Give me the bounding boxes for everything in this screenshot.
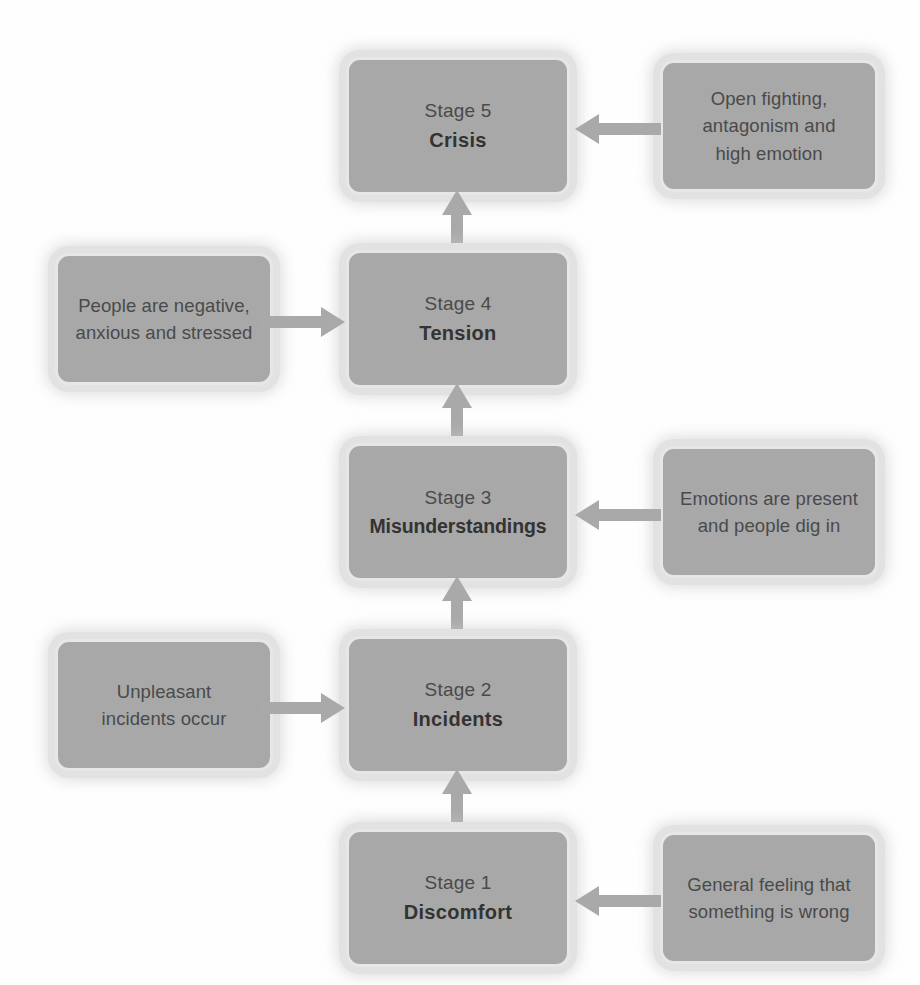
stage-4-name: Tension	[359, 319, 557, 348]
arrow-desc-to-stage-5	[575, 112, 661, 146]
description-line: General feeling that	[687, 874, 850, 895]
description-line: Open fighting,	[711, 88, 828, 109]
stage-1-label: Stage 1	[359, 869, 557, 897]
description-line: high emotion	[715, 143, 822, 164]
description-box-stage-1[interactable]: General feeling that something is wrong	[660, 832, 878, 964]
arrow-desc-to-stage-2	[259, 691, 345, 725]
stage-box-stage-1[interactable]: Stage 1 Discomfort	[346, 829, 570, 967]
description-box-stage-2[interactable]: Unpleasant incidents occur	[55, 639, 273, 771]
stage-5-name: Crisis	[359, 126, 557, 155]
description-line: something is wrong	[688, 901, 849, 922]
arrow-stage-2-to-stage-3	[440, 576, 474, 642]
description-line: and people dig in	[698, 515, 841, 536]
arrow-desc-to-stage-4	[259, 305, 345, 339]
stage-box-stage-5[interactable]: Stage 5 Crisis	[346, 57, 570, 195]
description-box-stage-5[interactable]: Open fighting, antagonism and high emoti…	[660, 60, 878, 192]
arrow-stage-3-to-stage-4	[440, 383, 474, 449]
description-text-stage-2: Unpleasant incidents occur	[58, 678, 270, 733]
stage-1-text: Stage 1 Discomfort	[349, 869, 567, 927]
arrow-desc-to-stage-3	[575, 498, 661, 532]
description-text-stage-4: People are negative, anxious and stresse…	[58, 292, 270, 347]
stage-5-text: Stage 5 Crisis	[349, 97, 567, 155]
stage-box-stage-4[interactable]: Stage 4 Tension	[346, 250, 570, 388]
conflict-stages-diagram: Stage 5 Crisis Open fighting, antagonism…	[0, 0, 920, 985]
stage-1-name: Discomfort	[359, 898, 557, 927]
description-line: Emotions are present	[680, 488, 858, 509]
stage-4-text: Stage 4 Tension	[349, 290, 567, 348]
stage-2-text: Stage 2 Incidents	[349, 676, 567, 734]
stage-4-label: Stage 4	[359, 290, 557, 318]
description-line: anxious and stressed	[76, 322, 253, 343]
description-line: incidents occur	[102, 708, 227, 729]
stage-2-name: Incidents	[359, 705, 557, 734]
description-line: Unpleasant	[117, 681, 212, 702]
stage-3-name: Misunderstandings	[359, 512, 557, 540]
stage-3-label: Stage 3	[359, 484, 557, 512]
description-text-stage-5: Open fighting, antagonism and high emoti…	[663, 85, 875, 167]
arrow-desc-to-stage-1	[575, 884, 661, 918]
description-box-stage-3[interactable]: Emotions are present and people dig in	[660, 446, 878, 578]
description-box-stage-4[interactable]: People are negative, anxious and stresse…	[55, 253, 273, 385]
stage-2-label: Stage 2	[359, 676, 557, 704]
arrow-stage-1-to-stage-2	[440, 769, 474, 835]
description-text-stage-3: Emotions are present and people dig in	[663, 485, 875, 540]
arrow-stage-4-to-stage-5	[440, 190, 474, 256]
description-text-stage-1: General feeling that something is wrong	[663, 871, 875, 926]
description-line: People are negative,	[78, 295, 250, 316]
description-line: antagonism and	[702, 115, 835, 136]
stage-box-stage-2[interactable]: Stage 2 Incidents	[346, 636, 570, 774]
stage-box-stage-3[interactable]: Stage 3 Misunderstandings	[346, 443, 570, 581]
stage-5-label: Stage 5	[359, 97, 557, 125]
stage-3-text: Stage 3 Misunderstandings	[349, 484, 567, 541]
